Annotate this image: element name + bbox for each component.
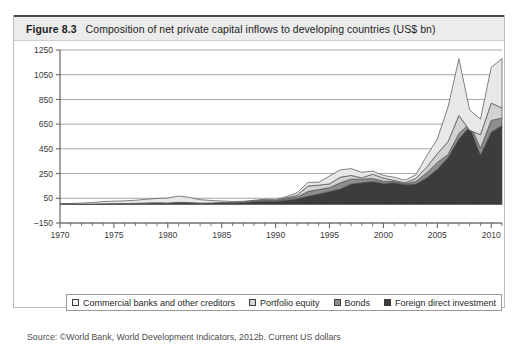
legend-label-bonds: Bonds [345,298,371,308]
svg-text:2010: 2010 [482,230,501,240]
svg-text:650: 650 [39,119,54,129]
svg-text:1975: 1975 [104,230,123,240]
legend-item-fdi: Foreign direct investment [384,298,496,308]
svg-text:1050: 1050 [34,70,53,80]
svg-text:2000: 2000 [374,230,393,240]
legend-item-bonds: Bonds [334,298,371,308]
legend-item-commercial-banks: Commercial banks and other creditors [72,298,235,308]
legend-swatch-fdi [384,299,391,306]
legend-label-fdi: Foreign direct investment [395,298,496,308]
svg-text:1990: 1990 [266,230,285,240]
figure-title: Composition of net private capital inflo… [86,23,436,35]
stacked-area-chart: –150502504506508501050125019701975198019… [14,41,504,306]
chart-legend: Commercial banks and other creditors Por… [66,294,502,311]
svg-text:1985: 1985 [212,230,231,240]
legend-label-portfolio-equity: Portfolio equity [260,298,320,308]
legend-swatch-portfolio-equity [249,299,256,306]
figure-header: Figure 8.3 Composition of net private ca… [14,15,504,41]
legend-item-portfolio-equity: Portfolio equity [249,298,320,308]
svg-text:50: 50 [43,193,53,203]
legend-label-commercial-banks: Commercial banks and other creditors [83,298,235,308]
svg-text:1970: 1970 [50,230,69,240]
figure-number: Figure 8.3 [26,23,77,35]
plot-area: –150502504506508501050125019701975198019… [14,41,504,306]
svg-text:–150: –150 [34,218,53,228]
figure-container: Figure 8.3 Composition of net private ca… [13,15,505,308]
svg-text:1995: 1995 [320,230,339,240]
svg-text:1980: 1980 [158,230,177,240]
svg-text:1250: 1250 [34,45,53,55]
svg-text:850: 850 [39,95,54,105]
svg-text:450: 450 [39,144,54,154]
svg-text:2005: 2005 [428,230,447,240]
legend-swatch-commercial-banks [72,299,79,306]
svg-text:250: 250 [39,169,54,179]
legend-swatch-bonds [334,299,341,306]
source-note: Source: ©World Bank, World Development I… [27,332,341,342]
